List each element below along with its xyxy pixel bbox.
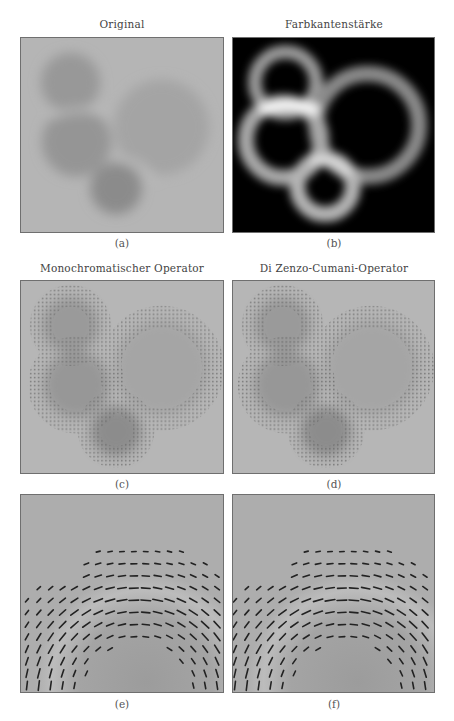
orientation-glyph: [108, 551, 112, 552]
orientation-glyph: [141, 600, 151, 601]
orientation-glyph: [118, 575, 125, 576]
panel-d-di-zenzo-cumani-operator-image: [232, 280, 435, 474]
orientation-glyph: [327, 564, 333, 565]
orientation-glyph: [350, 612, 358, 613]
orientation-glyph: [142, 624, 149, 625]
orientation-glyph: [119, 564, 125, 565]
panel-c-title: Monochromatischer Operator: [17, 262, 227, 274]
orientation-glyph: [349, 600, 359, 601]
orientation-glyph: [326, 575, 333, 576]
orientation-glyph: [96, 551, 100, 552]
panel-d-title: Di Zenzo-Cumani-Operator: [229, 262, 439, 274]
orientation-glyph: [234, 681, 235, 690]
orientation-glyph: [350, 624, 357, 625]
panel-b-caption: (b): [229, 237, 439, 249]
panel-e-orientation-field-zoom: [20, 494, 224, 693]
panel-d-caption: (d): [229, 478, 439, 490]
orientation-glyph: [26, 681, 27, 690]
panel-b-edge-strength-image: [232, 37, 435, 233]
panel-a-title: Original: [17, 18, 227, 30]
orientation-glyph: [141, 588, 150, 589]
panel-a-original-image: [20, 37, 224, 233]
orientation-glyph: [349, 588, 358, 589]
orientation-glyph: [155, 551, 159, 552]
panel-f-orientation-field-zoom: [232, 494, 435, 693]
orientation-glyph: [304, 551, 308, 552]
orientation-glyph: [363, 563, 369, 564]
panel-e-caption: (e): [17, 698, 227, 710]
orientation-glyph: [155, 563, 161, 564]
panel-b-title: Farbkantenstärke: [229, 18, 439, 30]
orientation-glyph: [167, 551, 171, 552]
panel-c-caption: (c): [17, 478, 227, 490]
orientation-glyph: [142, 612, 150, 613]
orientation-glyph: [375, 551, 379, 552]
orientation-glyph: [351, 636, 357, 637]
orientation-glyph: [364, 551, 368, 552]
orientation-glyph: [143, 636, 149, 637]
panel-f-caption: (f): [229, 698, 439, 710]
panel-c-monochromatic-operator-image: [20, 280, 224, 474]
panel-a-caption: (a): [17, 237, 227, 249]
orientation-glyph: [316, 551, 320, 552]
